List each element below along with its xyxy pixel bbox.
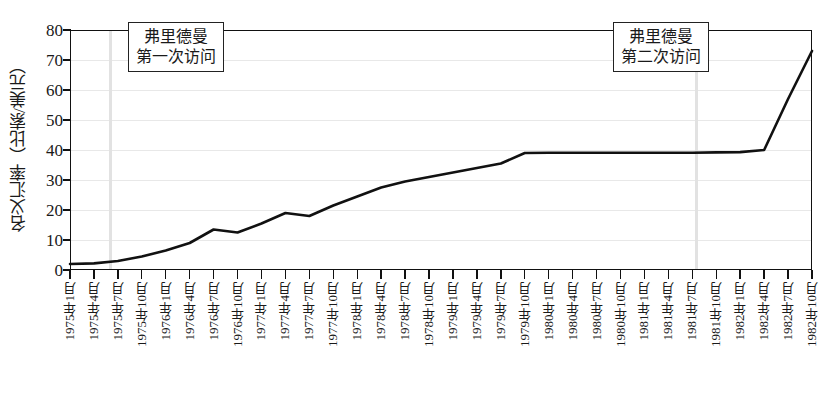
x-tick-mark bbox=[692, 270, 693, 279]
x-tick-label: 1980年10月 bbox=[614, 282, 627, 347]
x-tick-label: 1979年1月 bbox=[446, 282, 459, 341]
x-tick-label: 1976年4月 bbox=[183, 282, 196, 341]
x-axis-ticks bbox=[70, 270, 812, 279]
x-tick-mark bbox=[811, 270, 812, 279]
x-tick-mark bbox=[763, 270, 764, 279]
x-tick-mark bbox=[309, 270, 310, 279]
x-tick-mark bbox=[428, 270, 429, 279]
x-tick-label: 1978年7月 bbox=[398, 282, 411, 341]
y-tick-label: 40 bbox=[46, 142, 63, 159]
x-tick-mark bbox=[787, 270, 788, 279]
x-tick-label: 1977年4月 bbox=[278, 282, 291, 341]
x-tick-mark bbox=[237, 270, 238, 279]
x-tick-label: 1982年1月 bbox=[733, 282, 746, 341]
x-tick-label: 1975年10月 bbox=[135, 282, 148, 347]
annotation-friedman-visit-1: 弗里德曼 第一次访问 bbox=[128, 22, 224, 72]
x-tick-mark bbox=[213, 270, 214, 279]
x-tick-label: 1977年10月 bbox=[326, 282, 339, 347]
x-tick-mark bbox=[548, 270, 549, 279]
x-tick-label: 1977年7月 bbox=[302, 282, 315, 341]
x-tick-label: 1976年10月 bbox=[231, 282, 244, 347]
x-tick-mark bbox=[189, 270, 190, 279]
x-tick-label: 1975年7月 bbox=[111, 282, 124, 341]
x-tick-mark bbox=[739, 270, 740, 279]
y-tick-label: 30 bbox=[46, 172, 63, 189]
x-tick-label: 1981年10月 bbox=[709, 282, 722, 347]
x-tick-mark bbox=[165, 270, 166, 279]
x-tick-mark bbox=[452, 270, 453, 279]
x-tick-label: 1978年10月 bbox=[422, 282, 435, 347]
x-tick-mark bbox=[285, 270, 286, 279]
y-tick-label: 70 bbox=[46, 52, 63, 69]
annotation-line-2: 第一次访问 bbox=[136, 47, 216, 67]
chart-figure: 名义汇率（比索/美元） 01020304050607080 1975年1月197… bbox=[0, 0, 819, 405]
annotation-friedman-visit-2: 弗里德曼 第二次访问 bbox=[613, 22, 709, 72]
x-tick-label: 1976年7月 bbox=[207, 282, 220, 341]
x-tick-mark bbox=[620, 270, 621, 279]
y-tick-label: 0 bbox=[55, 262, 64, 279]
x-tick-mark bbox=[476, 270, 477, 279]
x-tick-mark bbox=[644, 270, 645, 279]
x-tick-mark bbox=[141, 270, 142, 279]
x-tick-label: 1975年1月 bbox=[63, 282, 76, 341]
x-tick-label: 1980年7月 bbox=[590, 282, 603, 341]
y-tick-label: 10 bbox=[46, 232, 63, 249]
x-tick-label: 1980年4月 bbox=[566, 282, 579, 341]
x-tick-mark bbox=[404, 270, 405, 279]
x-tick-label: 1975年4月 bbox=[87, 282, 100, 341]
x-tick-mark bbox=[524, 270, 525, 279]
x-tick-mark bbox=[261, 270, 262, 279]
x-tick-label: 1978年1月 bbox=[350, 282, 363, 341]
x-tick-mark bbox=[93, 270, 94, 279]
x-tick-label: 1982年10月 bbox=[805, 282, 818, 347]
y-axis-tick-labels: 01020304050607080 bbox=[30, 0, 63, 405]
x-tick-label: 1981年7月 bbox=[685, 282, 698, 341]
x-axis-tick-labels: 1975年1月1975年4月1975年7月1975年10月1976年1月1976… bbox=[70, 282, 812, 397]
y-tick-label: 20 bbox=[46, 202, 63, 219]
x-tick-mark bbox=[716, 270, 717, 279]
annotation-line-2: 第二次访问 bbox=[621, 47, 701, 67]
x-tick-label: 1977年1月 bbox=[254, 282, 267, 341]
x-tick-mark bbox=[380, 270, 381, 279]
x-tick-label: 1980年1月 bbox=[542, 282, 555, 341]
x-tick-label: 1979年7月 bbox=[494, 282, 507, 341]
x-tick-mark bbox=[333, 270, 334, 279]
x-tick-label: 1979年4月 bbox=[470, 282, 483, 341]
x-tick-label: 1981年1月 bbox=[637, 282, 650, 341]
annotation-line-1: 弗里德曼 bbox=[136, 27, 216, 47]
x-tick-label: 1982年4月 bbox=[757, 282, 770, 341]
x-tick-mark bbox=[596, 270, 597, 279]
annotation-line-1: 弗里德曼 bbox=[621, 27, 701, 47]
y-tick-label: 50 bbox=[46, 112, 63, 129]
x-tick-mark bbox=[117, 270, 118, 279]
x-tick-label: 1982年7月 bbox=[781, 282, 794, 341]
x-tick-label: 1978年4月 bbox=[374, 282, 387, 341]
x-tick-label: 1981年4月 bbox=[661, 282, 674, 341]
y-tick-label: 80 bbox=[46, 22, 63, 39]
x-tick-mark bbox=[572, 270, 573, 279]
x-tick-mark bbox=[500, 270, 501, 279]
y-tick-label: 60 bbox=[46, 82, 63, 99]
x-tick-label: 1979年10月 bbox=[518, 282, 531, 347]
x-tick-label: 1976年1月 bbox=[159, 282, 172, 341]
x-tick-mark bbox=[668, 270, 669, 279]
x-tick-mark bbox=[357, 270, 358, 279]
x-tick-mark bbox=[69, 270, 70, 279]
